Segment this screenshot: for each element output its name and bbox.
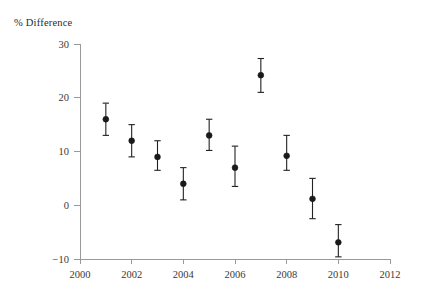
chart-container: % Difference −100102030 2000200220042006…	[0, 0, 421, 308]
x-tick-label: 2000	[70, 269, 91, 280]
data-point-group	[103, 103, 109, 135]
y-tick-label: 30	[59, 39, 70, 50]
data-point-group	[206, 119, 212, 150]
data-point-marker	[129, 138, 135, 144]
y-tick-label: 20	[59, 92, 70, 103]
data-point-marker	[206, 132, 212, 138]
data-point-marker	[258, 72, 264, 78]
y-tick-label: 0	[64, 200, 69, 211]
data-point-group	[232, 146, 238, 186]
data-point-marker	[335, 239, 341, 245]
data-point-marker	[103, 116, 109, 122]
data-point-group	[180, 168, 186, 200]
data-point-marker	[180, 181, 186, 187]
data-point-group	[128, 125, 134, 157]
x-tick-label: 2008	[276, 269, 297, 280]
scatter-plot-with-error-bars: −100102030 2000200220042006200820102012	[0, 0, 421, 308]
x-tick-label: 2002	[121, 269, 142, 280]
data-point-group	[335, 225, 341, 257]
y-tick-label: 10	[59, 146, 70, 157]
data-point-group	[154, 141, 160, 171]
data-series-group	[103, 59, 342, 257]
x-tick-label: 2012	[380, 269, 401, 280]
data-point-group	[283, 135, 289, 170]
data-point-group	[258, 59, 264, 93]
data-point-marker	[232, 165, 238, 171]
x-tick-label: 2006	[225, 269, 246, 280]
data-point-marker	[284, 153, 290, 159]
x-tick-label: 2004	[173, 269, 195, 280]
x-axis: 2000200220042006200820102012	[70, 259, 401, 280]
y-axis: −100102030	[53, 39, 80, 265]
data-point-marker	[155, 154, 161, 160]
x-tick-label: 2010	[328, 269, 349, 280]
data-point-marker	[310, 196, 316, 202]
data-point-group	[309, 178, 315, 218]
y-tick-label: −10	[53, 254, 69, 265]
